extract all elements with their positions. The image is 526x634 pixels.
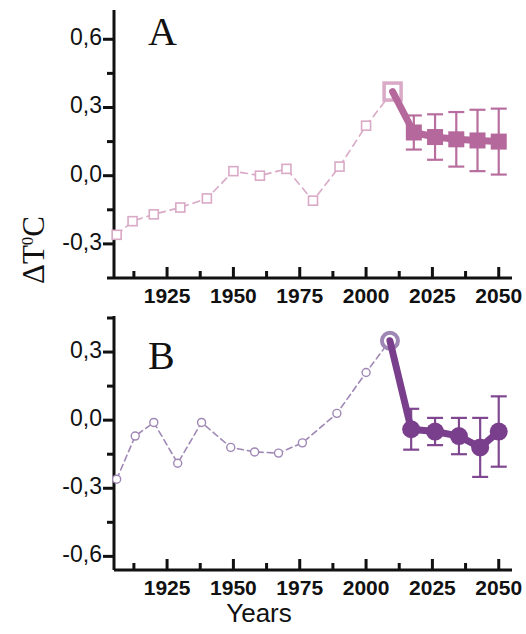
data-point-marker <box>128 217 137 226</box>
y-tick-label: 0,3 <box>38 92 102 119</box>
data-point-marker <box>275 449 283 457</box>
data-point-marker <box>362 368 370 376</box>
x-tick-label: 2050 <box>464 284 526 308</box>
y-tick-label: 0,3 <box>38 337 102 364</box>
x-tick-label: 2000 <box>331 576 401 600</box>
data-point-marker <box>335 162 344 171</box>
x-tick-label: 2000 <box>331 284 401 308</box>
data-point-marker <box>470 132 486 148</box>
data-point-marker <box>450 427 468 445</box>
data-point-marker <box>309 196 318 205</box>
panel-a-letter: A <box>148 8 177 55</box>
data-point-marker <box>426 423 444 441</box>
data-point-marker <box>202 194 211 203</box>
data-point-marker <box>362 121 371 130</box>
x-tick-label: 2025 <box>397 576 467 600</box>
data-point-marker <box>427 129 443 145</box>
data-point-marker <box>298 439 306 447</box>
panel-b-letter: B <box>148 332 175 379</box>
y-tick-label: 0,0 <box>38 405 102 432</box>
x-tick-label: 1950 <box>198 576 268 600</box>
data-point-marker <box>229 167 238 176</box>
data-point-marker <box>227 443 235 451</box>
data-point-marker <box>448 131 464 147</box>
data-point-marker <box>251 448 259 456</box>
data-point-marker <box>406 124 422 140</box>
data-point-marker <box>198 418 206 426</box>
y-tick-label: -0,3 <box>38 473 102 500</box>
data-point-marker <box>333 409 341 417</box>
x-tick-label: 1925 <box>132 576 202 600</box>
data-point-marker <box>131 432 139 440</box>
y-tick-label: 0,0 <box>38 161 102 188</box>
x-tick-label: 1975 <box>265 576 335 600</box>
x-axis-label: Years <box>0 598 518 629</box>
y-axis-label-superscript: 0 <box>18 237 37 246</box>
data-point-marker <box>402 420 420 438</box>
data-point-marker <box>255 171 264 180</box>
x-tick-label: 1925 <box>132 284 202 308</box>
data-point-marker <box>491 134 507 150</box>
x-tick-label: 2050 <box>464 576 526 600</box>
data-point-marker <box>490 423 508 441</box>
y-tick-label: -0,3 <box>38 229 102 256</box>
data-point-marker <box>471 438 489 456</box>
data-point-marker <box>176 203 185 212</box>
x-tick-label: 2025 <box>397 284 467 308</box>
data-point-marker <box>112 230 121 239</box>
data-point-marker <box>113 475 121 483</box>
data-point-marker <box>282 164 291 173</box>
y-tick-label: -0,6 <box>38 541 102 568</box>
data-point-marker <box>150 418 158 426</box>
y-tick-label: 0,6 <box>38 24 102 51</box>
data-point-marker <box>149 210 158 219</box>
x-tick-label: 1975 <box>265 284 335 308</box>
data-point-marker <box>174 459 182 467</box>
x-tick-label: 1950 <box>198 284 268 308</box>
